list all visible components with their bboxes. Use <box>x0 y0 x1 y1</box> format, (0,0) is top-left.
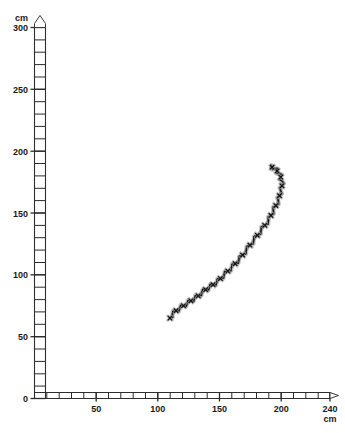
y-tick-label-150: 150 <box>13 209 28 219</box>
y-tick-label-200: 200 <box>13 147 28 157</box>
series-core-line <box>170 165 284 318</box>
y-axis-unit-label: cm <box>15 13 28 23</box>
x-axis-arrow-icon <box>330 393 339 399</box>
data-series-trajectory <box>167 164 285 321</box>
x-tick-label-150: 150 <box>212 404 227 414</box>
y-tick-label-0: 0 <box>23 394 28 404</box>
series-halo-inner <box>170 167 282 318</box>
x-tick-label-100: 100 <box>150 404 165 414</box>
x-tick-label-50: 50 <box>91 404 101 414</box>
y-axis-major-ticks <box>31 28 46 399</box>
x-axis-unit-label: cm <box>323 414 336 424</box>
series-markers <box>167 164 285 321</box>
y-tick-label-300: 300 <box>13 23 28 33</box>
x-axis-minor-ticks <box>35 393 331 399</box>
y-tick-label-100: 100 <box>13 270 28 280</box>
series-halo-outer <box>170 165 284 318</box>
x-tick-label-240: 240 <box>322 404 337 414</box>
trajectory-plot: 300 250 200 150 100 50 0 cm <box>0 0 345 433</box>
y-axis-ruler <box>31 16 46 399</box>
x-tick-label-200: 200 <box>274 404 289 414</box>
y-tick-label-50: 50 <box>18 332 28 342</box>
x-axis-ruler <box>35 393 339 402</box>
y-tick-label-250: 250 <box>13 85 28 95</box>
chart-page: 300 250 200 150 100 50 0 cm <box>0 0 345 433</box>
y-axis-arrow-icon <box>35 16 46 28</box>
x-axis-major-ticks <box>96 393 330 402</box>
